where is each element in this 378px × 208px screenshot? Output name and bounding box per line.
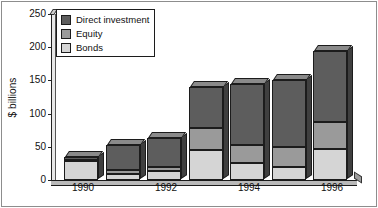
bar-segment-direct [147, 138, 181, 167]
bar-1990 [64, 157, 98, 180]
legend-label: Direct investment [76, 15, 149, 25]
legend-label: Equity [76, 29, 102, 39]
bar-1991 [106, 145, 140, 180]
bar-top-face [231, 78, 269, 84]
legend-swatch-direct [61, 15, 71, 25]
bar-side-face [306, 75, 312, 179]
y-axis-tick-labels: 050100150200250 [20, 0, 46, 208]
bar-segment-equity [230, 145, 264, 164]
bar-side-face [181, 133, 187, 179]
bar-segment-bonds [313, 149, 347, 180]
y-axis-tick-label: 150 [20, 75, 46, 85]
y-axis-tick-label: 0 [20, 175, 46, 185]
bar-segment-bonds [64, 161, 98, 180]
legend: Direct investmentEquityBonds [56, 9, 155, 57]
bar-segment-equity [106, 170, 140, 174]
bar-1993 [189, 87, 223, 180]
legend-item-equity: Equity [61, 27, 150, 41]
y-axis-tick-mark [48, 180, 52, 181]
bar-segment-equity [313, 122, 347, 149]
bar-segment-direct [313, 51, 347, 122]
bar-segment-direct [106, 145, 140, 170]
y-axis-tick-label: 200 [20, 42, 46, 52]
y-axis-title: $ billions [7, 58, 18, 138]
bar-1994 [230, 84, 264, 180]
bar-segment-equity [189, 128, 223, 151]
x-axis-tick-label: 1996 [321, 182, 343, 193]
bar-segment-bonds [147, 171, 181, 180]
bar-top-face [106, 139, 144, 145]
y-axis-tick-mark [48, 114, 52, 115]
legend-item-direct: Direct investment [61, 13, 150, 27]
bar-chart-figure: $ billions 050100150200250 1990199219941… [0, 0, 378, 208]
bar-segment-direct [230, 84, 264, 145]
legend-label: Bonds [76, 43, 103, 53]
bar-top-face [65, 151, 103, 157]
bar-segment-equity [272, 147, 306, 167]
y-axis-tick-label: 100 [20, 109, 46, 119]
bar-segment-bonds [272, 167, 306, 180]
legend-swatch-equity [61, 29, 71, 39]
bar-segment-bonds [106, 174, 140, 180]
bar-top-face [314, 45, 352, 51]
y-axis-tick-label: 250 [20, 9, 46, 19]
bar-segment-direct [272, 80, 306, 146]
legend-swatch-bonds [61, 43, 71, 53]
bar-segment-direct [64, 157, 98, 160]
y-axis-tick-mark [48, 47, 52, 48]
x-axis-tick-label: 1994 [238, 182, 260, 193]
bar-side-face [223, 82, 229, 179]
bar-segment-equity [147, 167, 181, 172]
bar-segment-direct [189, 87, 223, 128]
legend-item-bonds: Bonds [61, 41, 150, 55]
y-axis-tick-mark [48, 14, 52, 15]
y-axis-tick-label: 50 [20, 142, 46, 152]
bar-1996 [313, 51, 347, 180]
bar-1992 [147, 138, 181, 180]
x-axis-tick-labels: 1990199219941996 [51, 182, 357, 202]
y-axis-tick-mark [48, 147, 52, 148]
bar-top-face [148, 132, 186, 138]
bar-segment-bonds [189, 150, 223, 180]
bar-1995 [272, 80, 306, 180]
bar-side-face [347, 46, 353, 180]
bar-side-face [264, 79, 270, 179]
bar-top-face [189, 81, 227, 87]
bar-side-face [140, 140, 146, 179]
y-axis-tick-mark [48, 80, 52, 81]
x-axis-tick-label: 1990 [72, 182, 94, 193]
x-axis-tick-label: 1992 [155, 182, 177, 193]
bar-top-face [272, 74, 310, 80]
bar-segment-bonds [230, 163, 264, 180]
